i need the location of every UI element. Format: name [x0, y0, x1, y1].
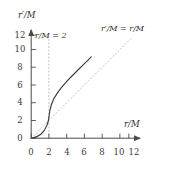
y-tick-label-12: 12: [13, 31, 27, 40]
x-axis-label: r/M: [124, 120, 140, 129]
x-tick-label-2: 2: [42, 148, 56, 157]
y-tick-label-2: 2: [13, 116, 27, 125]
x-tick-label-0: 0: [24, 148, 38, 157]
y-tick-label-4: 4: [13, 98, 27, 107]
x-tick-label-6: 6: [77, 148, 91, 157]
diagonal-reference-line: [31, 39, 131, 139]
y-tick-label-0: 0: [13, 134, 27, 143]
y-tick-label-8: 8: [13, 63, 27, 72]
y-tick-label-10: 10: [13, 45, 27, 54]
x-tick-label-12: 12: [126, 148, 142, 157]
y-axis-label: r′/M: [18, 11, 36, 20]
x-tick-label-10: 10: [111, 148, 127, 157]
main-curve: [31, 57, 91, 138]
x-axis-ticks: [31, 134, 129, 139]
annotation-vertical-line: r/M = 2: [35, 32, 67, 40]
annotation-diagonal-line: r′/M = r/M: [101, 25, 144, 33]
y-axis-ticks: [31, 35, 36, 138]
figure-container: r′/M r/M r/M = 2 r′/M = r/M 12 10 8 6 4 …: [0, 0, 169, 170]
x-tick-label-8: 8: [95, 148, 109, 157]
x-tick-label-4: 4: [60, 148, 74, 157]
y-tick-label-6: 6: [13, 81, 27, 90]
